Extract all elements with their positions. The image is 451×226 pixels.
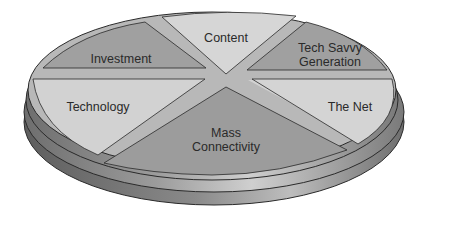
label-investment: Investment xyxy=(90,52,152,66)
label-technology: Technology xyxy=(66,100,130,114)
segmented-pie-diagram: Content Tech SavvyGeneration The Net Mas… xyxy=(0,0,451,226)
label-the-net: The Net xyxy=(328,100,373,114)
label-tech-savvy-generation: Tech SavvyGeneration xyxy=(298,41,363,69)
label-content: Content xyxy=(204,31,248,45)
